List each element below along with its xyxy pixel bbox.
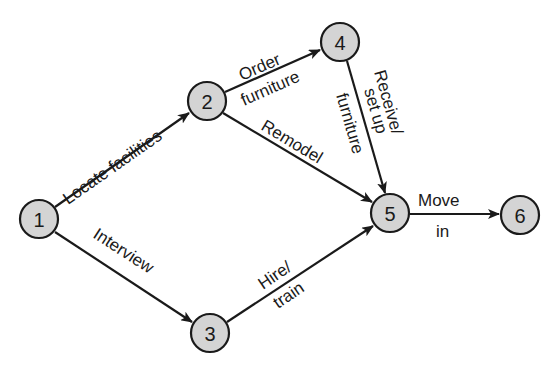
- edge-3-5: [227, 226, 373, 322]
- svg-text:3: 3: [204, 323, 215, 345]
- label-remodel: Remodel: [258, 116, 326, 167]
- node-2: 2: [188, 82, 226, 120]
- svg-text:1: 1: [33, 209, 44, 231]
- svg-text:5: 5: [384, 203, 395, 225]
- svg-text:6: 6: [514, 205, 525, 227]
- node-3: 3: [191, 314, 229, 352]
- label-interview: Interview: [90, 224, 158, 277]
- label-in: in: [436, 222, 449, 241]
- node-4: 4: [321, 23, 359, 61]
- node-6: 6: [501, 196, 539, 234]
- network-diagram: Locate facilities Interview Order furnit…: [0, 0, 557, 377]
- node-1: 1: [20, 200, 58, 238]
- label-move: Move: [418, 191, 460, 210]
- label-locate-facilities: Locate facilities: [59, 126, 165, 208]
- node-5: 5: [371, 194, 409, 232]
- svg-text:4: 4: [334, 32, 345, 54]
- svg-text:2: 2: [201, 91, 212, 113]
- label-furniture-receive: furniture: [332, 91, 367, 156]
